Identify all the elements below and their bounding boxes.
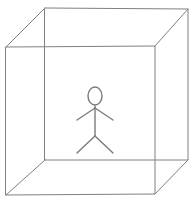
back-face-outline [45,8,188,160]
stick-figure-group [77,87,113,153]
edge-bottom-left-icon [6,160,45,195]
cube-front-face [6,46,155,195]
person-right-arm [95,108,113,120]
cube-back-face [45,8,188,160]
person-head-icon [88,87,102,105]
diagram-canvas: Person inside a transparent cube Line dr… [0,0,195,207]
person-left-arm [77,108,95,120]
person-in-cube-drawing [0,0,195,207]
front-face-outline [6,46,155,195]
edge-bottom-right-icon [155,160,188,194]
cube-connecting-edges [6,8,188,195]
cube-group [6,8,188,195]
person-right-leg [95,136,113,153]
edge-top-right-icon [155,9,188,46]
person-left-leg [77,136,95,153]
edge-top-left-icon [6,8,45,47]
